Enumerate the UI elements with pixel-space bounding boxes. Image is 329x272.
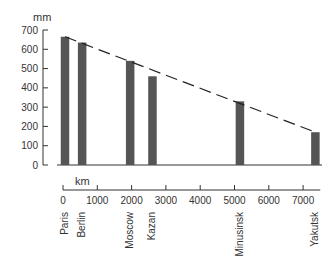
y-tick-label: 100 [21,140,38,151]
y-tick-label: 300 [21,102,38,113]
y-tick-label: 200 [21,121,38,132]
city-label-kazan: Kazan [146,212,157,240]
x-tick-label: 6000 [258,195,281,206]
y-tick-label: 600 [21,44,38,55]
x-tick-label: 1000 [86,195,109,206]
city-label-yakutsk: Yakutsk [309,211,320,247]
trend-line [65,37,315,132]
bar-kazan [148,76,157,165]
y-tick-label: 400 [21,82,38,93]
bar-moscow [126,61,135,165]
x-axis-label: km [75,175,90,187]
city-label-minusinsk: Minusinsk [234,211,245,256]
city-label-moscow: Moscow [124,211,135,248]
city-label-berlin: Berlin [76,212,87,238]
city-label-paris: Paris [59,212,70,235]
bar-paris [61,37,70,165]
x-tick-label: 3000 [155,195,178,206]
x-tick-label: 7000 [292,195,315,206]
y-tick-label: 500 [21,63,38,74]
bar-minusinsk [236,101,245,165]
precipitation-distance-chart: mm0100200300400500600700km01000200030004… [0,0,329,272]
x-tick-label: 5000 [223,195,246,206]
y-tick-label: 0 [32,160,38,171]
x-tick-label: 0 [60,195,66,206]
x-tick-label: 4000 [189,195,212,206]
bar-yakutsk [311,132,320,165]
y-axis-label: mm [33,11,51,23]
x-tick-label: 2000 [120,195,143,206]
bar-berlin [78,43,87,165]
y-tick-label: 700 [21,25,38,36]
